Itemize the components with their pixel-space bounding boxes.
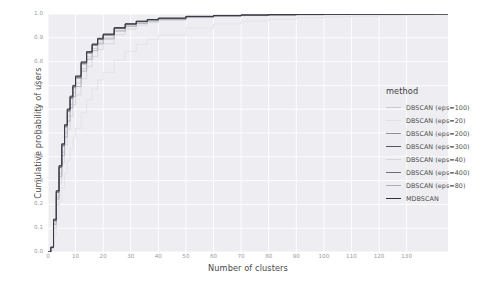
x-tick-label: 20 — [90, 254, 116, 260]
legend-entry[interactable]: DBSCAN (eps=80) — [386, 179, 470, 192]
legend-entry[interactable]: DBSCAN (eps=40) — [386, 153, 470, 166]
legend: method DBSCAN (eps=100)DBSCAN (eps=20)DB… — [386, 86, 470, 205]
x-tick-label: 90 — [283, 254, 309, 260]
legend-entry[interactable]: DBSCAN (eps=200) — [386, 127, 470, 140]
x-tick-label: 130 — [394, 254, 420, 260]
legend-entry[interactable]: DBSCAN (eps=20) — [386, 114, 470, 127]
legend-line-swatch — [386, 107, 401, 108]
x-tick-label: 30 — [118, 254, 144, 260]
legend-entry[interactable]: DBSCAN (eps=300) — [386, 140, 470, 153]
legend-entry-label: DBSCAN (eps=300) — [406, 143, 470, 151]
legend-line-swatch — [386, 185, 401, 186]
legend-title: method — [386, 86, 470, 96]
legend-line-swatch — [386, 133, 401, 134]
legend-entries: DBSCAN (eps=100)DBSCAN (eps=20)DBSCAN (e… — [386, 101, 470, 205]
legend-entry-label: DBSCAN (eps=400) — [406, 169, 470, 177]
y-tick-label: 1.0 — [17, 11, 43, 17]
x-axis-label: Number of clusters — [48, 263, 448, 273]
legend-entry-label: MDBSCAN — [406, 195, 439, 203]
figure-caption — [2, 278, 482, 286]
legend-entry[interactable]: DBSCAN (eps=100) — [386, 101, 470, 114]
x-tick-label: 40 — [145, 254, 171, 260]
x-tick-label: 80 — [256, 254, 282, 260]
y-axis-label: Cumulative probability of users — [33, 33, 43, 233]
legend-entry-label: DBSCAN (eps=200) — [406, 130, 470, 138]
legend-line-swatch — [386, 120, 401, 121]
legend-entry-label: DBSCAN (eps=20) — [406, 117, 465, 125]
x-tick-label: 100 — [311, 254, 337, 260]
legend-line-swatch — [386, 146, 401, 147]
x-tick-label: 0 — [35, 254, 61, 260]
x-tick-label: 50 — [173, 254, 199, 260]
legend-entry[interactable]: DBSCAN (eps=400) — [386, 166, 470, 179]
legend-entry-label: DBSCAN (eps=100) — [406, 104, 470, 112]
x-tick-label: 60 — [201, 254, 227, 260]
legend-entry-label: DBSCAN (eps=80) — [406, 182, 465, 190]
legend-line-swatch — [386, 159, 401, 160]
x-tick-label: 10 — [63, 254, 89, 260]
x-tick-label: 70 — [228, 254, 254, 260]
legend-line-swatch — [386, 198, 401, 199]
legend-line-swatch — [386, 172, 401, 173]
x-tick-label: 110 — [338, 254, 364, 260]
legend-entry[interactable]: MDBSCAN — [386, 192, 470, 205]
chart-figure: Cumulative probability of users 0.00.10.… — [0, 0, 488, 288]
x-tick-label: 120 — [366, 254, 392, 260]
legend-entry-label: DBSCAN (eps=40) — [406, 156, 465, 164]
